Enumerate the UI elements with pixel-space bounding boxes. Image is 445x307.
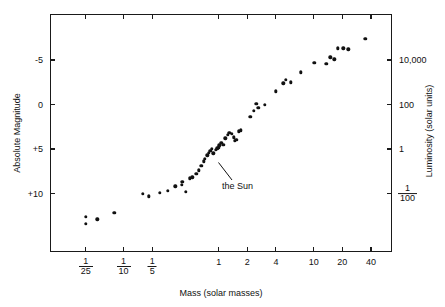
- x-tick-mark: [313, 247, 314, 252]
- fraction-numerator: 1: [398, 184, 417, 193]
- fraction-denominator: 10: [117, 266, 131, 276]
- y-tick-label: +10: [28, 189, 43, 198]
- x-tick-mark-top: [247, 14, 248, 19]
- x-tick-mark-top: [218, 14, 219, 19]
- x-tick-label: 110: [117, 257, 131, 277]
- y2-tick-label: 10,000: [399, 56, 427, 65]
- x-tick-mark-top: [313, 14, 314, 19]
- fraction-denominator: 100: [398, 193, 417, 203]
- annotation-label-the-sun: the Sun: [222, 181, 253, 191]
- y2-tick-mark: [387, 193, 392, 194]
- x-tick-mark: [342, 247, 343, 252]
- x-tick-mark-top: [275, 14, 276, 19]
- x-tick-label: 15: [148, 257, 157, 277]
- fraction-numerator: 1: [148, 257, 157, 266]
- fraction-numerator: 1: [117, 257, 131, 266]
- x-tick-label: 1: [216, 258, 221, 267]
- x-tick-mark: [85, 247, 86, 252]
- x-tick-mark-top: [123, 14, 124, 19]
- x-tick-mark-top: [152, 14, 153, 19]
- mass-luminosity-chart: 12511015124102040-50+5+1010,00010011100 …: [0, 0, 445, 307]
- y-axis-title-right: Luminosity (solar units): [424, 85, 434, 178]
- y2-tick-mark: [387, 59, 392, 60]
- x-tick-mark-top: [85, 14, 86, 19]
- y-tick-mark: [50, 193, 55, 194]
- x-tick-label: 40: [366, 258, 376, 267]
- y2-tick-mark: [387, 148, 392, 149]
- y2-tick-label: 100: [399, 100, 414, 109]
- x-tick-mark-top: [342, 14, 343, 19]
- y2-tick-label: 1: [399, 145, 404, 154]
- x-tick-mark: [370, 247, 371, 252]
- plot-frame: [50, 14, 392, 252]
- x-tick-label: 2: [245, 258, 250, 267]
- y-tick-label: 0: [38, 100, 43, 109]
- y-tick-mark: [50, 59, 55, 60]
- y-tick-label: +5: [33, 145, 43, 154]
- x-tick-mark: [275, 247, 276, 252]
- y-tick-mark: [50, 104, 55, 105]
- x-tick-mark: [218, 247, 219, 252]
- x-axis-title: Mass (solar masses): [179, 288, 262, 298]
- x-tick-mark: [152, 247, 153, 252]
- y2-tick-mark: [387, 104, 392, 105]
- x-tick-mark: [123, 247, 124, 252]
- fraction-denominator: 25: [79, 266, 93, 276]
- fraction-denominator: 5: [148, 266, 157, 276]
- fraction-numerator: 1: [79, 257, 93, 266]
- y-tick-label: -5: [35, 56, 43, 65]
- x-tick-label: 4: [273, 258, 278, 267]
- x-tick-label: 10: [309, 258, 319, 267]
- y-tick-mark: [50, 148, 55, 149]
- y-axis-title-left: Absolute Magnitude: [12, 93, 22, 173]
- x-tick-mark-top: [370, 14, 371, 19]
- x-tick-mark: [247, 247, 248, 252]
- y2-tick-label: 1100: [398, 184, 417, 204]
- x-tick-label: 125: [79, 257, 93, 277]
- x-tick-label: 20: [337, 258, 347, 267]
